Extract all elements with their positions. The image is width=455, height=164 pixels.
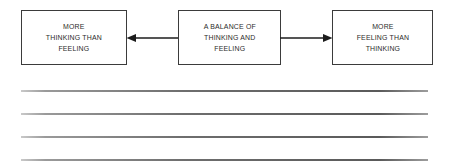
connector-arrow-left — [126, 30, 179, 46]
diagram-page: MORE THINKING THAN FEELING A BALANCE OF … — [0, 0, 455, 164]
worksheet-rule-line — [21, 159, 428, 161]
diagram-node-more-thinking: MORE THINKING THAN FEELING — [21, 10, 127, 65]
diagram-node-more-feeling: MORE FEELING THAN THINKING — [332, 10, 433, 65]
worksheet-rule-line — [21, 90, 428, 92]
diagram-node-more-thinking-label: MORE THINKING THAN FEELING — [46, 21, 102, 55]
connector-arrow-right — [280, 30, 333, 46]
worksheet-rule-line — [21, 136, 428, 138]
diagram-node-more-feeling-label: MORE FEELING THAN THINKING — [356, 21, 408, 55]
diagram-node-balance-label: A BALANCE OF THINKING AND FEELING — [203, 21, 255, 55]
worksheet-rule-line — [21, 113, 428, 115]
diagram-node-balance: A BALANCE OF THINKING AND FEELING — [178, 10, 281, 65]
